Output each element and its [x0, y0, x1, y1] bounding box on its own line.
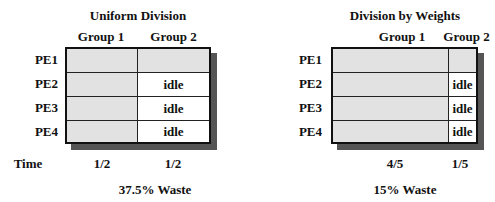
division-by-weights-title: Division by Weights — [330, 8, 480, 24]
left-row-label-pe3: PE3 — [18, 100, 58, 116]
column-divider — [448, 49, 449, 142]
right-row-label-pe3: PE3 — [282, 100, 322, 116]
right-time-group2: 1/5 — [440, 156, 480, 172]
left-pe1-group2-cell — [138, 49, 209, 72]
left-grid: idle idle idle — [65, 47, 211, 144]
right-grid: idle idle idle — [331, 47, 478, 144]
left-time-group2: 1/2 — [148, 156, 198, 172]
left-pe2-group2-idle-cell: idle — [138, 73, 209, 96]
right-row-label-pe2: PE2 — [282, 76, 322, 92]
right-row-label-pe4: PE4 — [282, 124, 322, 140]
left-pe4-group2-idle-cell: idle — [138, 121, 209, 142]
row-divider — [67, 120, 209, 121]
right-header-group1: Group 1 — [360, 29, 444, 45]
row-divider — [333, 96, 476, 97]
left-row-label-pe4: PE4 — [18, 124, 58, 140]
right-pe2-group2-idle-cell: idle — [449, 73, 476, 96]
left-header-group1: Group 1 — [65, 29, 137, 45]
row-divider — [67, 96, 209, 97]
row-divider — [333, 120, 476, 121]
left-row-label-pe2: PE2 — [18, 76, 58, 92]
left-row-label-pe1: PE1 — [18, 52, 58, 68]
right-row-label-pe1: PE1 — [282, 52, 322, 68]
right-pe4-group2-idle-cell: idle — [449, 121, 476, 142]
left-waste-label: 37.5% Waste — [100, 182, 210, 198]
right-time-group1: 4/5 — [370, 156, 420, 172]
row-divider — [333, 72, 476, 73]
right-pe1-group2-cell — [449, 49, 476, 72]
column-divider — [137, 49, 138, 142]
time-label: Time — [8, 156, 48, 172]
left-header-group2: Group 2 — [137, 29, 210, 45]
right-pe3-group2-idle-cell: idle — [449, 97, 476, 120]
row-divider — [67, 72, 209, 73]
right-waste-label: 15% Waste — [350, 182, 460, 198]
left-pe3-group2-idle-cell: idle — [138, 97, 209, 120]
left-time-group1: 1/2 — [77, 156, 127, 172]
right-header-group2: Group 2 — [438, 29, 495, 45]
uniform-division-title: Uniform Division — [65, 8, 211, 24]
